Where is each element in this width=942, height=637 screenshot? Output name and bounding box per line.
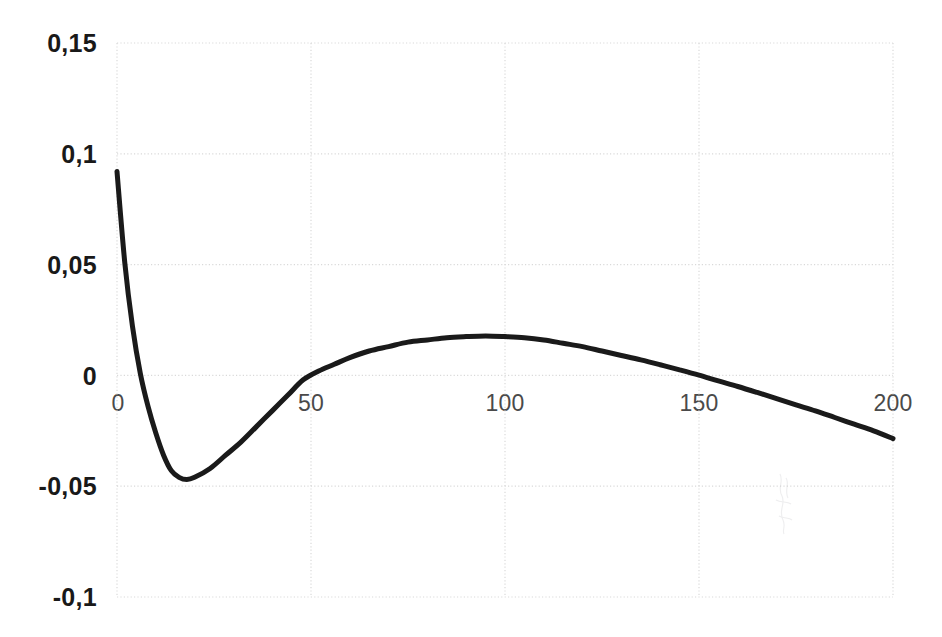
vertical-gridlines xyxy=(117,43,893,597)
chart-container: 0,15 0,1 0,05 0 -0,05 -0,1 0 50 100 150 … xyxy=(0,0,942,637)
horizontal-gridlines xyxy=(117,43,893,597)
plot-area xyxy=(0,0,942,637)
